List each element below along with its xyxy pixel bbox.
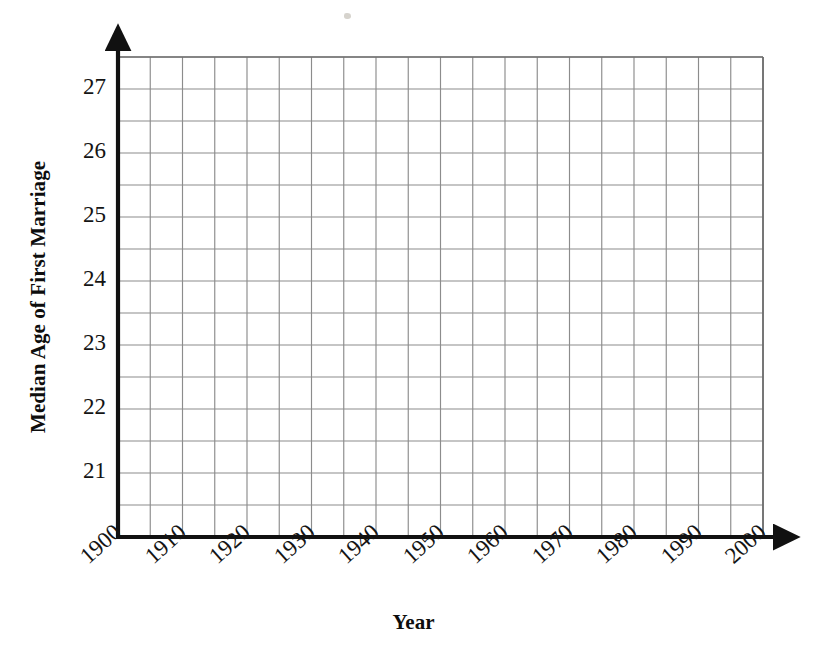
y-tick-label: 21 xyxy=(58,458,106,484)
y-tick-label: 24 xyxy=(58,266,106,292)
worksheet-page: 27262524232221 1900191019201930194019501… xyxy=(0,0,827,665)
x-axis-title: Year xyxy=(0,610,827,635)
y-tick-label: 26 xyxy=(58,138,106,164)
y-tick-label: 22 xyxy=(58,394,106,420)
y-axis-title: Median Age of First Marriage xyxy=(26,161,51,433)
gridlines-group xyxy=(118,57,763,537)
y-tick-label: 25 xyxy=(58,202,106,228)
y-tick-label: 23 xyxy=(58,330,106,356)
y-tick-label: 27 xyxy=(58,74,106,100)
